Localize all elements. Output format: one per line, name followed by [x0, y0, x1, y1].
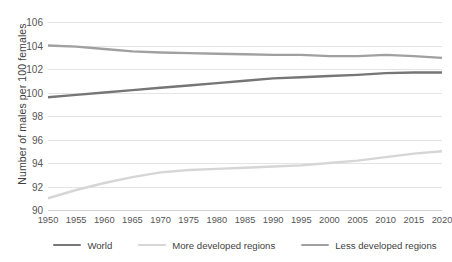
legend-item-more-developed-regions[interactable]: More developed regions [138, 240, 275, 251]
x-tick-label-2015: 2015 [404, 215, 425, 225]
chart-legend: WorldMore developed regionsLess develope… [48, 236, 442, 254]
y-tick-label-94: 94 [32, 158, 43, 169]
x-tick-label-1995: 1995 [291, 215, 312, 225]
series-line-more-developed-regions [48, 151, 442, 198]
series-line-world [48, 73, 442, 98]
x-tick-label-1980: 1980 [207, 215, 228, 225]
x-tick-label-1990: 1990 [263, 215, 284, 225]
gridline-90 [48, 210, 442, 211]
x-tick-label-1970: 1970 [150, 215, 171, 225]
legend-swatch-icon [301, 244, 329, 247]
x-tick-label-1975: 1975 [178, 215, 199, 225]
y-axis-title: Number of males per 100 females [14, 0, 30, 214]
x-tick-label-1960: 1960 [94, 215, 115, 225]
x-tick-label-2010: 2010 [375, 215, 396, 225]
x-tick-label-1985: 1985 [235, 215, 256, 225]
series-line-less-developed-regions [48, 46, 442, 58]
legend-label: World [87, 240, 112, 251]
x-tick-label-2005: 2005 [347, 215, 368, 225]
legend-swatch-icon [138, 244, 166, 247]
x-tick-label-1965: 1965 [122, 215, 143, 225]
plot-area: 9092949698100102104106 19501955196019651… [48, 22, 442, 210]
x-tick-label-2020: 2020 [432, 215, 452, 225]
y-tick-label-98: 98 [32, 111, 43, 122]
y-tick-label-106: 106 [26, 17, 43, 28]
legend-label: More developed regions [172, 240, 275, 251]
x-tick-label-1950: 1950 [38, 215, 59, 225]
series-lines-group [48, 22, 442, 210]
legend-swatch-icon [53, 244, 81, 247]
y-tick-label-102: 102 [26, 64, 43, 75]
y-tick-label-104: 104 [26, 40, 43, 51]
x-tick-label-1955: 1955 [66, 215, 87, 225]
y-tick-label-90: 90 [32, 205, 43, 216]
legend-item-less-developed-regions[interactable]: Less developed regions [301, 240, 436, 251]
x-tick-label-2000: 2000 [319, 215, 340, 225]
y-tick-label-96: 96 [32, 134, 43, 145]
y-tick-label-100: 100 [26, 87, 43, 98]
legend-label: Less developed regions [335, 240, 436, 251]
legend-item-world[interactable]: World [53, 240, 112, 251]
y-tick-label-92: 92 [32, 181, 43, 192]
